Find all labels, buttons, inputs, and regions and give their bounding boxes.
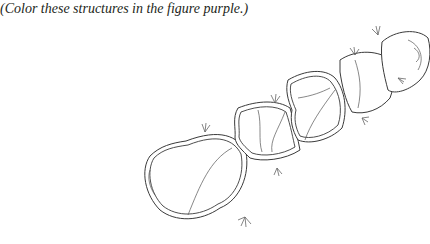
segment-2 [235, 102, 300, 160]
segment-3 [287, 71, 345, 141]
segment-1 [145, 135, 247, 219]
segmented-structure-figure [0, 0, 430, 244]
segment-5 [381, 32, 429, 92]
